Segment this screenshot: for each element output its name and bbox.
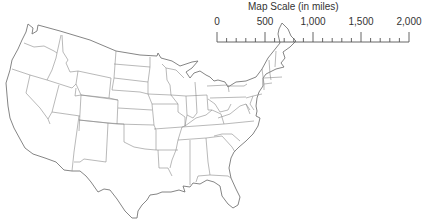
scale-title: Map Scale (in miles) [248, 1, 339, 12]
scale-label-1000: 1,000 [300, 16, 325, 27]
scale-label-2000: 2,000 [396, 16, 421, 27]
scale-label-500: 500 [257, 16, 274, 27]
country-outline [6, 23, 296, 218]
scale-label-1500: 1,500 [348, 16, 373, 27]
scale-label-0: 0 [214, 16, 220, 27]
